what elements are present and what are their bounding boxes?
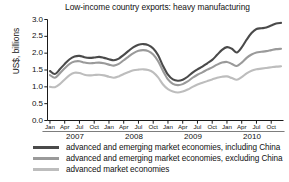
- legend-item-label: advanced and emerging market economies, …: [66, 143, 280, 152]
- chart-legend: advanced and emerging market economies, …: [33, 142, 289, 175]
- legend-item[interactable]: advanced and emerging market economies, …: [33, 142, 289, 153]
- data-series-line: [50, 23, 281, 81]
- legend-item[interactable]: advanced market economies: [33, 164, 289, 175]
- legend-item-label: advanced and emerging market economies, …: [66, 154, 283, 163]
- legend-item[interactable]: advanced and emerging market economies, …: [33, 153, 289, 164]
- data-series-group: [50, 23, 281, 93]
- legend-line-swatch: [33, 146, 59, 149]
- legend-line-swatch: [33, 168, 59, 171]
- chart-figure: Low-income country exports: heavy manufa…: [0, 0, 289, 182]
- legend-item-label: advanced market economies: [66, 165, 169, 174]
- data-series-line: [50, 49, 281, 85]
- legend-line-swatch: [33, 157, 59, 160]
